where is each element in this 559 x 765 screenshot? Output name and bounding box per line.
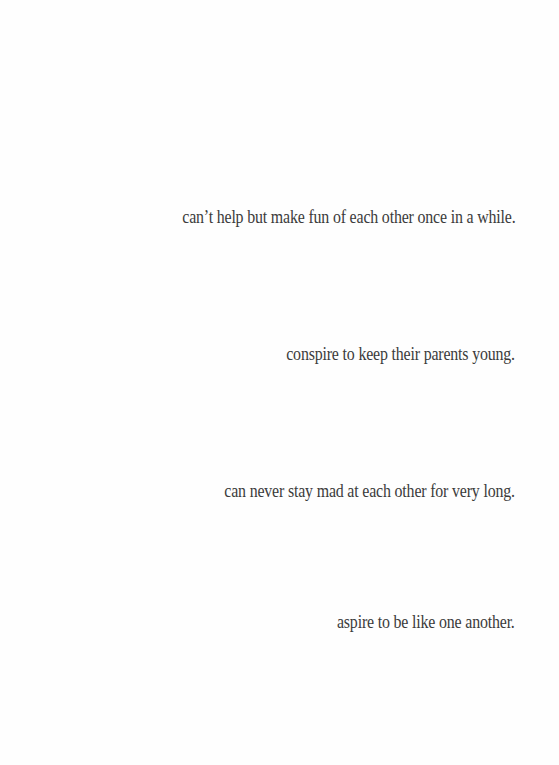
text-line-1: can’t help but make fun of each other on… bbox=[182, 206, 515, 228]
text-line-3: can never stay mad at each other for ver… bbox=[224, 480, 515, 502]
book-page: can’t help but make fun of each other on… bbox=[0, 0, 559, 765]
text-line-4: aspire to be like one another. bbox=[337, 611, 515, 633]
text-line-2: conspire to keep their parents young. bbox=[286, 343, 515, 365]
